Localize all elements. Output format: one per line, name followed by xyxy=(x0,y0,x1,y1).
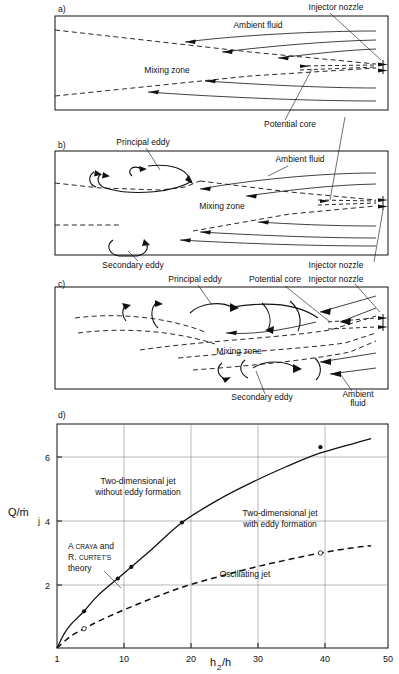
streamline-b3 xyxy=(258,222,376,226)
mix-dash-c2 xyxy=(78,330,215,344)
upper-shear-layer xyxy=(55,30,376,64)
annotation-theory-line2: R. CURTET'S xyxy=(68,552,112,562)
panel-b-label-principal-eddy: Principal eddy xyxy=(116,137,170,147)
figure-svg: a) Ambient fluid Mixing zone Injector no… xyxy=(0,0,399,674)
y-axis-title: Q/ṁ j xyxy=(8,506,40,526)
panel-b-id: b) xyxy=(58,140,66,150)
panel-a-label-ambient-fluid: Ambient fluid xyxy=(233,20,282,30)
panel-c-label-ambient-2: fluid xyxy=(350,398,366,408)
panel-a-id: a) xyxy=(58,4,66,14)
panel-c-label-potential-core: Potential core xyxy=(249,274,301,284)
annotation-without-eddy-line1: Two-dimensional jet xyxy=(100,476,176,486)
potential-core-upper xyxy=(300,65,376,66)
panel-b: b) xyxy=(55,117,388,270)
data-point-filled xyxy=(82,609,86,613)
arrowheads-b xyxy=(180,187,388,243)
series-dashed-points xyxy=(82,551,323,631)
leader-potential-core-b xyxy=(330,117,345,200)
streamline-a5 xyxy=(148,92,376,101)
panel-b-label-injector-nozzle: Injector nozzle xyxy=(309,260,364,270)
annotation-with-eddy: Two-dimensional jet with eddy formation xyxy=(242,508,318,529)
x-axis-title: h 2 /h xyxy=(210,656,231,672)
data-point-open xyxy=(318,551,322,555)
panel-d-id: d) xyxy=(58,410,66,420)
xtick-label-50: 50 xyxy=(383,654,393,664)
eddy-boundary-b-upper xyxy=(55,181,200,190)
data-point-filled xyxy=(116,576,120,580)
data-point-filled xyxy=(180,520,184,524)
annotation-without-eddy-line2: without eddy formation xyxy=(94,487,181,497)
leader-injector-nozzle-b xyxy=(374,210,383,262)
annotation-theory-line1: A CRAYA and xyxy=(68,541,114,551)
xtick-label-10: 10 xyxy=(119,654,129,664)
panel-c-label-injector-nozzle: Injector nozzle xyxy=(309,274,364,284)
x-axis-title-base1: h xyxy=(210,656,216,668)
mix-dash-c4 xyxy=(178,333,376,358)
principal-eddy-c xyxy=(122,300,318,334)
secondary-eddy-c xyxy=(218,358,320,383)
panel-a-label-injector-nozzle: Injector nozzle xyxy=(309,2,364,12)
leader-potential-core-a xyxy=(285,69,312,120)
annotation-with-eddy-line2: with eddy formation xyxy=(242,519,317,529)
panel-a-frame xyxy=(55,16,388,110)
xtick-label-1: 1 xyxy=(54,654,59,664)
principal-eddy-b xyxy=(90,165,193,192)
mix-dash-c3 xyxy=(140,316,376,350)
panel-c-label-principal-eddy: Principal eddy xyxy=(168,274,222,284)
streamline-a4 xyxy=(205,81,376,88)
annotation-theory-credit: A CRAYA and R. CURTET'S theory xyxy=(68,541,121,588)
y-axis-title-sub: j xyxy=(37,516,40,526)
leader-injector-nozzle-a xyxy=(330,13,381,60)
ytick-label-4: 4 xyxy=(45,517,50,527)
potential-core-lower-b xyxy=(318,203,376,205)
chart-plot-frame xyxy=(57,424,388,648)
panel-b-label-secondary-eddy: Secondary eddy xyxy=(102,260,164,270)
chart-gridlines xyxy=(57,424,388,648)
streamline-a3 xyxy=(278,49,376,58)
xtick-label-20: 20 xyxy=(186,654,196,664)
panel-c-label-secondary-eddy: Secondary eddy xyxy=(231,392,293,402)
leader-principal-eddy-c xyxy=(198,285,212,305)
mix-dash-c1 xyxy=(75,316,205,332)
ytick-label-6: 6 xyxy=(45,453,50,463)
panel-b-label-ambient-fluid: Ambient fluid xyxy=(275,154,324,164)
annotation-without-eddy: Two-dimensional jet without eddy formati… xyxy=(94,476,181,497)
y-axis-title-main: Q/ṁ xyxy=(8,506,29,518)
panel-a-label-potential-core: Potential core xyxy=(264,119,316,129)
panel-a: a) Ambient fluid Mixing zone Injector no… xyxy=(55,2,388,129)
xtick-label-30: 30 xyxy=(253,654,263,664)
leader-potential-core-c xyxy=(285,286,330,322)
streamline-b1 xyxy=(200,173,376,189)
x-axis-title-base2: /h xyxy=(222,656,231,668)
annotation-theory-line3: theory xyxy=(68,563,92,573)
xtick-label-40: 40 xyxy=(320,654,330,664)
streamline-b4 xyxy=(200,232,376,238)
leader-secondary-eddy-c xyxy=(256,371,265,394)
panel-d-chart: d) 6 4 2 1 10 20 30 xyxy=(8,410,393,672)
data-point-filled xyxy=(129,565,133,569)
panel-c-label-mixing-zone: Mixing zone xyxy=(216,346,262,356)
data-point-filled xyxy=(318,445,322,449)
ytick-label-2: 2 xyxy=(45,581,50,591)
data-point-open xyxy=(82,626,86,630)
secondary-eddy-b xyxy=(109,239,150,256)
annotation-with-eddy-line1: Two-dimensional jet xyxy=(242,508,318,518)
streamline-a1 xyxy=(185,31,376,42)
series-dashed-curve xyxy=(57,546,371,648)
panel-c: c) xyxy=(55,274,388,408)
panel-b-label-mixing-zone: Mixing zone xyxy=(199,201,245,211)
leader-ambient-fluid-b xyxy=(268,166,288,176)
leader-injector-nozzle-c xyxy=(355,284,380,312)
streamline-b5 xyxy=(180,240,376,246)
annotation-oscillating-jet: Oscillating jet xyxy=(220,569,271,579)
figure-container: a) Ambient fluid Mixing zone Injector no… xyxy=(0,0,399,674)
series-solid-points xyxy=(82,445,323,613)
panel-a-label-mixing-zone: Mixing zone xyxy=(144,65,190,75)
